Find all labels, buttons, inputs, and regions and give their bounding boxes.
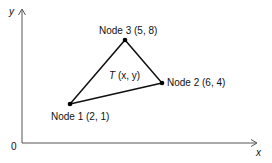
node-3-label: Node 3 (5, 8) xyxy=(99,25,157,36)
interior-point-args: (x, y) xyxy=(115,70,140,81)
node-3-point xyxy=(123,38,128,43)
node-1-point xyxy=(68,102,73,107)
x-axis-label: x xyxy=(255,147,262,158)
y-axis-label: y xyxy=(8,6,15,17)
node-2-point xyxy=(160,81,165,86)
node-2-label: Node 2 (6, 4) xyxy=(167,77,225,88)
interior-point-label: T (x, y) xyxy=(109,70,140,81)
triangle-element-diagram: y x 0 Node 1 (2, 1) Node 2 (6, 4) Node 3… xyxy=(0,0,272,163)
node-1-label: Node 1 (2, 1) xyxy=(51,111,109,122)
origin-label: 0 xyxy=(11,141,17,152)
